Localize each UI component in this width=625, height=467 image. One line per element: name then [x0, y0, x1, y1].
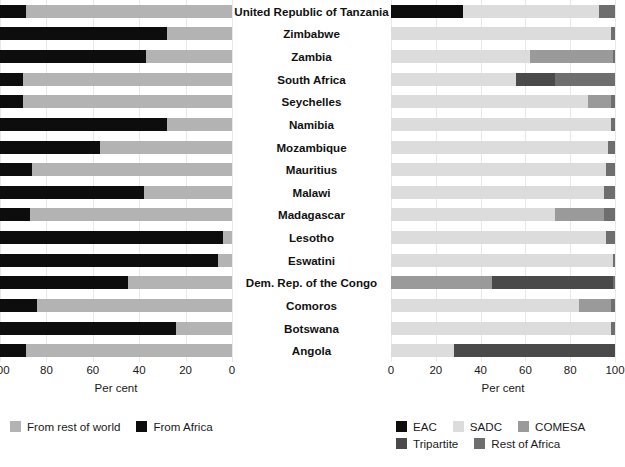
- bar-segment-from-africa[interactable]: [0, 118, 167, 131]
- bar-segment-from-africa[interactable]: [0, 276, 128, 289]
- bar-segment-from-rest-of-world[interactable]: [37, 299, 232, 312]
- bar-segment-rest-of-africa[interactable]: [611, 95, 615, 108]
- bar-row[interactable]: [391, 91, 615, 114]
- bar-segment-from-rest-of-world[interactable]: [23, 95, 232, 108]
- legend-item-rest-of-africa[interactable]: Rest of Africa: [474, 437, 560, 450]
- bar-segment-rest-of-africa[interactable]: [604, 208, 615, 221]
- bar-segment-sadc[interactable]: [391, 27, 611, 40]
- bar-row[interactable]: [0, 226, 232, 249]
- bar-segment-from-africa[interactable]: [0, 5, 26, 18]
- bar-segment-comesa[interactable]: [588, 95, 610, 108]
- bar-row[interactable]: [0, 158, 232, 181]
- bar-segment-tripartite[interactable]: [454, 344, 615, 357]
- bar-segment-sadc[interactable]: [391, 231, 606, 244]
- bar-segment-from-africa[interactable]: [0, 344, 26, 357]
- bar-segment-sadc[interactable]: [391, 50, 530, 63]
- bar-row[interactable]: [0, 181, 232, 204]
- bar-segment-rest-of-africa[interactable]: [608, 141, 615, 154]
- bar-segment-from-rest-of-world[interactable]: [167, 118, 232, 131]
- bar-segment-rest-of-africa[interactable]: [606, 231, 615, 244]
- bar-row[interactable]: [391, 113, 615, 136]
- bar-segment-from-rest-of-world[interactable]: [146, 50, 232, 63]
- bar-segment-eac[interactable]: [391, 5, 463, 18]
- bar-row[interactable]: [0, 317, 232, 340]
- bar-row[interactable]: [0, 45, 232, 68]
- bar-segment-rest-of-africa[interactable]: [611, 27, 615, 40]
- bar-segment-sadc[interactable]: [391, 254, 613, 267]
- bar-segment-rest-of-africa[interactable]: [555, 73, 615, 86]
- bar-segment-from-rest-of-world[interactable]: [26, 344, 232, 357]
- bar-row[interactable]: [391, 272, 615, 295]
- bar-segment-from-rest-of-world[interactable]: [23, 73, 232, 86]
- bar-segment-from-africa[interactable]: [0, 208, 30, 221]
- bar-segment-from-africa[interactable]: [0, 254, 218, 267]
- bar-segment-from-rest-of-world[interactable]: [30, 208, 232, 221]
- bar-segment-rest-of-africa[interactable]: [613, 276, 615, 289]
- bar-row[interactable]: [0, 294, 232, 317]
- bar-row[interactable]: [391, 226, 615, 249]
- bar-row[interactable]: [391, 68, 615, 91]
- bar-segment-sadc[interactable]: [463, 5, 600, 18]
- bar-segment-comesa[interactable]: [530, 50, 613, 63]
- legend-item-from-africa[interactable]: From Africa: [136, 420, 212, 433]
- bar-row[interactable]: [0, 204, 232, 227]
- bar-segment-from-africa[interactable]: [0, 27, 167, 40]
- bar-row[interactable]: [391, 204, 615, 227]
- bar-row[interactable]: [391, 294, 615, 317]
- bar-segment-rest-of-africa[interactable]: [599, 5, 615, 18]
- bar-segment-comesa[interactable]: [555, 208, 604, 221]
- bar-row[interactable]: [391, 339, 615, 362]
- bar-segment-sadc[interactable]: [391, 163, 606, 176]
- bar-row[interactable]: [391, 317, 615, 340]
- bar-row[interactable]: [0, 113, 232, 136]
- bar-segment-comesa[interactable]: [391, 276, 492, 289]
- bar-segment-sadc[interactable]: [391, 73, 516, 86]
- bar-row[interactable]: [0, 68, 232, 91]
- bar-segment-from-rest-of-world[interactable]: [32, 163, 232, 176]
- bar-row[interactable]: [0, 339, 232, 362]
- bar-segment-from-rest-of-world[interactable]: [223, 231, 232, 244]
- bar-segment-comesa[interactable]: [579, 299, 610, 312]
- bar-row[interactable]: [391, 181, 615, 204]
- bar-segment-rest-of-africa[interactable]: [613, 254, 615, 267]
- bar-segment-from-africa[interactable]: [0, 95, 23, 108]
- bar-segment-rest-of-africa[interactable]: [611, 322, 615, 335]
- bar-segment-sadc[interactable]: [391, 141, 608, 154]
- bar-row[interactable]: [0, 91, 232, 114]
- bar-segment-from-rest-of-world[interactable]: [176, 322, 232, 335]
- bar-segment-from-africa[interactable]: [0, 231, 223, 244]
- bar-segment-sadc[interactable]: [391, 186, 604, 199]
- bar-segment-from-rest-of-world[interactable]: [26, 5, 232, 18]
- bar-segment-rest-of-africa[interactable]: [611, 118, 615, 131]
- bar-segment-sadc[interactable]: [391, 299, 579, 312]
- bar-segment-rest-of-africa[interactable]: [611, 299, 615, 312]
- bar-row[interactable]: [0, 0, 232, 23]
- bar-segment-from-rest-of-world[interactable]: [218, 254, 232, 267]
- bar-row[interactable]: [391, 136, 615, 159]
- bar-segment-from-africa[interactable]: [0, 163, 32, 176]
- legend-item-comesa[interactable]: COMESA: [518, 420, 585, 433]
- bar-segment-from-rest-of-world[interactable]: [144, 186, 232, 199]
- bar-segment-from-rest-of-world[interactable]: [128, 276, 232, 289]
- legend-item-tripartite[interactable]: Tripartite: [396, 437, 458, 450]
- bar-row[interactable]: [0, 249, 232, 272]
- bar-row[interactable]: [391, 249, 615, 272]
- bar-row[interactable]: [391, 23, 615, 46]
- bar-row[interactable]: [391, 0, 615, 23]
- bar-row[interactable]: [0, 23, 232, 46]
- bar-segment-tripartite[interactable]: [516, 73, 554, 86]
- bar-segment-sadc[interactable]: [391, 95, 588, 108]
- bar-segment-from-africa[interactable]: [0, 50, 146, 63]
- bar-segment-from-rest-of-world[interactable]: [167, 27, 232, 40]
- bar-segment-rest-of-africa[interactable]: [613, 50, 615, 63]
- bar-segment-from-africa[interactable]: [0, 73, 23, 86]
- bar-row[interactable]: [0, 272, 232, 295]
- bar-segment-sadc[interactable]: [391, 344, 454, 357]
- bar-row[interactable]: [391, 45, 615, 68]
- legend-item-eac[interactable]: EAC: [396, 420, 437, 433]
- bar-segment-from-rest-of-world[interactable]: [100, 141, 232, 154]
- bar-segment-tripartite[interactable]: [492, 276, 613, 289]
- bar-row[interactable]: [391, 158, 615, 181]
- legend-item-from-rest-of-world[interactable]: From rest of world: [10, 420, 120, 433]
- bar-row[interactable]: [0, 136, 232, 159]
